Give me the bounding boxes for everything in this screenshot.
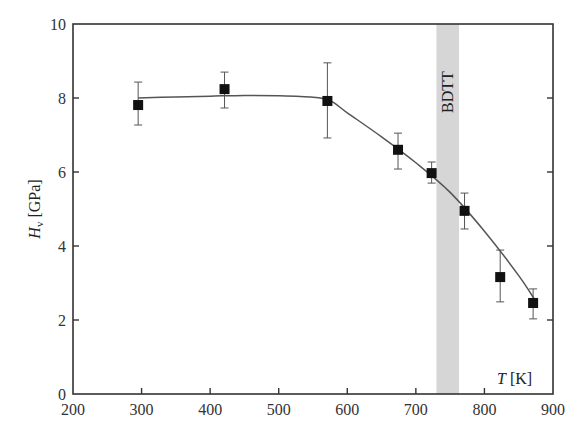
x-tick-label: 300 [130,401,154,418]
axis-ticks [73,98,553,394]
data-point-square [322,96,332,106]
data-point-square [460,206,470,216]
error-bars [134,63,537,319]
y-tick-label: 0 [58,386,66,403]
hardness-vs-temperature-chart: 2003004005006007008009000246810 BDTT Hv … [0,0,577,446]
x-tick-label: 200 [61,401,85,418]
data-point-square [528,298,538,308]
x-tick-label: 600 [335,401,359,418]
x-tick-label: 400 [198,401,222,418]
data-point-square [393,145,403,155]
y-tick-label: 6 [58,164,66,181]
x-tick-label: 700 [404,401,428,418]
data-point-square [427,168,437,178]
x-tick-label: 500 [267,401,291,418]
x-axis-title: T [K] [497,370,532,387]
y-tick-label: 10 [50,16,66,33]
y-tick-label: 8 [58,90,66,107]
plot-frame [73,24,553,394]
tick-labels: 2003004005006007008009000246810 [50,16,565,418]
data-point-square [220,84,230,94]
data-point-square [495,272,505,282]
y-tick-label: 2 [58,312,66,329]
y-tick-label: 4 [58,238,66,255]
x-tick-label: 800 [472,401,496,418]
band-label: BDTT [439,71,456,113]
fit-curve [138,95,536,301]
data-point-square [133,100,143,110]
fit-line [138,95,536,301]
x-tick-label: 900 [541,401,565,418]
y-axis-title: Hv [GPa] [26,179,45,239]
data-points [133,84,538,308]
